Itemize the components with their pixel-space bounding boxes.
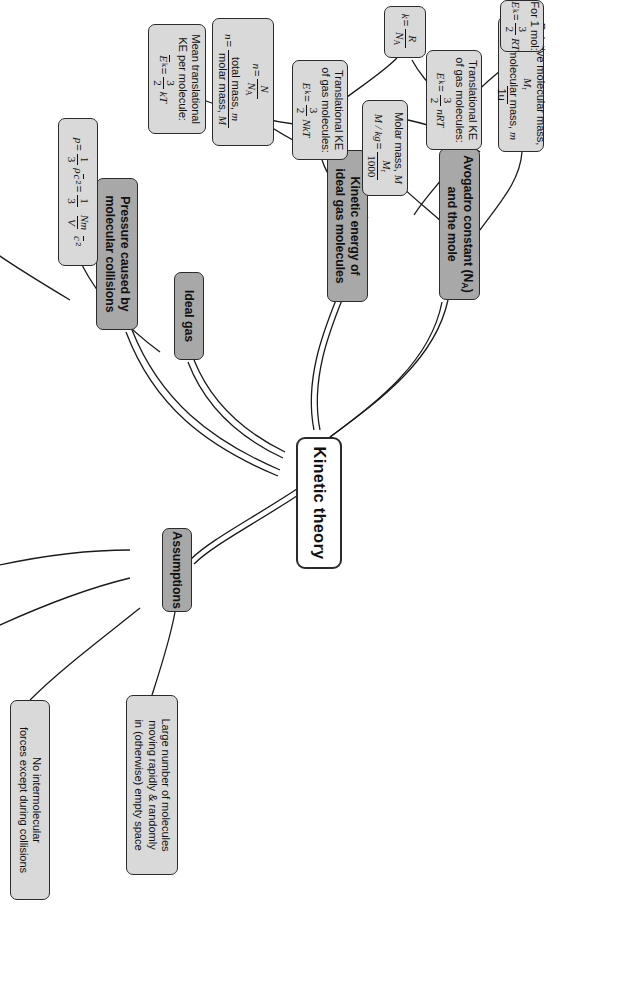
translational-ke-nrt-line2: of gas molecules: <box>453 57 466 142</box>
leaf-assumption-no-forces[interactable]: No intermolecular forces except during c… <box>10 700 50 900</box>
branch-avogadro-constant[interactable]: Avogadro constant (NA) and the mole <box>439 148 480 300</box>
assumption-large-number-line3: in (otherwise) empty space <box>132 719 145 850</box>
central-node-label: Kinetic theory <box>309 447 328 560</box>
amount-of-substance-equation-1: n = N NA <box>244 63 270 100</box>
translational-ke-nkt-line2: of gas molecules: <box>319 67 332 152</box>
pressure-equation: p = 13 ρc2 = 13 NmV c2 <box>66 138 90 247</box>
branch-assumptions-label: Assumptions <box>170 531 185 608</box>
leaf-assumption-large-number[interactable]: Large number of molecules moving rapidly… <box>126 695 178 875</box>
branch-pressure-line1: Pressure caused by <box>117 196 132 311</box>
assumption-no-forces-line2: forces except during collisions <box>17 727 30 873</box>
mean-translational-ke-equation: Ek = 32 kT <box>152 55 176 103</box>
assumption-large-number-line2: moving rapidly & randomly <box>145 720 158 849</box>
branch-ideal-gas[interactable]: Ideal gas <box>174 272 204 360</box>
mean-translational-ke-line2: KE per molecule: <box>176 37 189 121</box>
translational-ke-nrt-line1: Translational KE <box>466 60 479 140</box>
leaf-molar-mass[interactable]: Molar mass, M M / kg = Mr 1000 <box>362 100 408 196</box>
boltzmann-constant-equation: k = R NA <box>392 14 418 50</box>
branch-ideal-gas-label: Ideal gas <box>182 290 197 342</box>
mindmap-canvas: Kinetic theory Avogadro constant (NA) an… <box>0 0 630 984</box>
translational-ke-nrt-equation: Ek = 32 nRT <box>429 73 453 128</box>
amount-of-substance-equation-2: n = total mass, m molar mass, M <box>216 34 240 130</box>
assumption-no-forces-line1: No intermolecular <box>30 757 43 843</box>
branch-pressure-collisions[interactable]: Pressure caused by molecular collisions <box>96 178 138 330</box>
leaf-amount-of-substance[interactable]: n = N NA n = total mass, m molar mass, M <box>212 18 274 146</box>
leaf-mean-translational-ke[interactable]: Mean translational KE per molecule: Ek =… <box>148 24 206 134</box>
for-one-mol-equation: Ek = 32 RT <box>503 1 527 50</box>
leaf-translational-ke-nrt[interactable]: Translational KE of gas molecules: Ek = … <box>426 50 482 150</box>
molar-mass-equation: M / kg = Mr 1000 <box>365 114 391 182</box>
for-one-mol-line1: For 1 mol: <box>528 1 541 50</box>
leaf-pressure-equation[interactable]: p = 13 ρc2 = 13 NmV c2 <box>58 118 98 266</box>
molar-mass-label: Molar mass, M <box>392 112 405 184</box>
leaf-translational-ke-nkt[interactable]: Translational KE of gas molecules: Ek = … <box>292 60 348 160</box>
mindmap-rotated-canvas: Kinetic theory Avogadro constant (NA) an… <box>0 0 630 984</box>
translational-ke-nkt-line1: Translational KE <box>332 70 345 150</box>
branch-kinetic-energy-line1: Kinetic energy of <box>348 177 363 276</box>
branch-pressure-line2: molecular collisions <box>102 195 117 312</box>
mean-translational-ke-line1: Mean translational <box>189 34 202 124</box>
branch-kinetic-energy-line2: ideal gas molecules <box>333 168 348 283</box>
translational-ke-nkt-equation: Ek = 32 NkT <box>295 83 319 138</box>
leaf-boltzmann-constant[interactable]: k = R NA <box>384 6 426 58</box>
assumption-large-number-line1: Large number of molecules <box>159 718 172 851</box>
branch-avogadro-label-line2: and the mole <box>444 186 459 261</box>
leaf-for-one-mol[interactable]: For 1 mol: Ek = 32 RT <box>500 0 544 52</box>
central-node-kinetic-theory[interactable]: Kinetic theory <box>296 437 342 569</box>
branch-avogadro-label-line1: Avogadro constant (NA) <box>459 155 475 292</box>
branch-assumptions[interactable]: Assumptions <box>162 528 192 612</box>
